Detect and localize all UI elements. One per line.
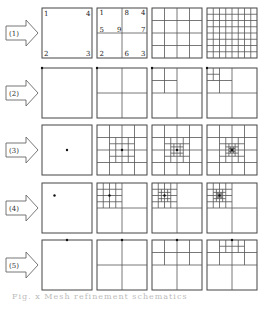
node-number: 4 (141, 9, 146, 17)
panel-r4-c4 (207, 183, 257, 233)
singular-point (206, 67, 208, 69)
row-arrow-5: (5) (6, 252, 38, 278)
panel-r4-c3 (152, 183, 202, 233)
refinement-diagram: (1)1423184597263(2)(3)(4)(5) (0, 0, 271, 310)
node-number: 2 (100, 50, 104, 58)
singular-point (218, 194, 220, 196)
node-number: 3 (86, 50, 90, 58)
figure-caption: Fig. x Mesh refinement schematics (12, 292, 187, 301)
node-number: 3 (141, 50, 145, 58)
row-arrow-2: (2) (6, 80, 38, 106)
panel-r3-c4 (207, 125, 257, 175)
panel-r2-c1 (41, 67, 92, 118)
panel-r5-c4 (207, 239, 257, 290)
singular-point (121, 239, 123, 241)
singular-point (231, 239, 233, 241)
row-arrow-3: (3) (6, 137, 38, 163)
singular-point (41, 67, 43, 69)
panel-r4-c2 (97, 183, 147, 233)
node-number: 5 (100, 26, 104, 34)
row-arrow-4: (4) (6, 195, 38, 221)
row-arrow-1: (1) (6, 20, 38, 46)
panel-r4-c1 (42, 183, 92, 233)
singular-point (66, 149, 68, 151)
panel-r5-c1 (42, 239, 92, 290)
row-label: (4) (9, 205, 19, 213)
panel-r5-c2 (97, 239, 147, 290)
panel-r2-c4 (206, 67, 257, 118)
node-number: 8 (125, 9, 129, 17)
node-number: 2 (44, 50, 48, 58)
node-number: 7 (141, 26, 145, 34)
node-number: 4 (86, 10, 91, 18)
panel-r5-c3 (152, 239, 202, 290)
panel-r2-c2 (96, 67, 147, 118)
panel-r3-c2 (97, 125, 147, 175)
row-label: (2) (9, 90, 19, 98)
panel-r1-c2: 184597263 (97, 8, 147, 58)
singular-point (176, 239, 178, 241)
singular-point (108, 194, 110, 196)
singular-point (121, 149, 123, 151)
node-number: 1 (100, 9, 104, 17)
panel-r3-c1 (42, 125, 92, 175)
singular-point (66, 239, 68, 241)
singular-point (53, 194, 55, 196)
row-label: (3) (9, 147, 19, 155)
panel-r1-c1: 1423 (42, 8, 92, 58)
row-label: (1) (9, 30, 19, 38)
node-number: 6 (125, 50, 130, 58)
node-number: 9 (117, 26, 121, 34)
panel-r2-c3 (151, 67, 202, 118)
singular-point (176, 149, 178, 151)
panel-r1-c3 (152, 8, 202, 58)
node-number: 1 (44, 10, 48, 18)
singular-point (151, 67, 153, 69)
panel-r3-c3 (152, 125, 202, 175)
singular-point (96, 67, 98, 69)
row-label: (5) (9, 262, 19, 270)
singular-point (231, 149, 233, 151)
singular-point (163, 194, 165, 196)
panel-r1-c4 (207, 8, 257, 58)
